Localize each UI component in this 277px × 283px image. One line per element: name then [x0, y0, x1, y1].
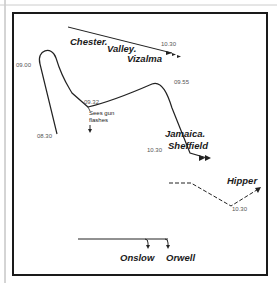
note-sees-gun-flashes-line1: Sees gun [89, 110, 114, 116]
ship-label-vizalma: Vizalma [127, 53, 162, 64]
time-label-0900: 09.00 [16, 62, 32, 68]
time-label-0830: 08.30 [37, 133, 53, 139]
ship-label-orwell: Orwell [166, 252, 195, 263]
time-label-1030-main: 10.30 [147, 147, 163, 153]
time-label-0932: 09.32 [84, 99, 100, 105]
ship-label-hipper: Hipper [227, 175, 258, 186]
naval-track-diagram: Chester. Valley. Vizalma 10.30 08.30 09.… [0, 0, 277, 283]
time-label-1030-hipper: 10.30 [232, 206, 248, 212]
note-sees-gun-flashes-line2: flashes [89, 117, 108, 123]
time-label-0955: 09.55 [174, 79, 190, 85]
ship-label-sheffield: Sheffield [168, 140, 208, 151]
ship-label-jamaica: Jamaica. [165, 128, 205, 139]
ship-label-chester: Chester. [70, 36, 108, 47]
ship-label-onslow: Onslow [120, 252, 155, 263]
time-label-1030-convoy: 10.30 [161, 41, 177, 47]
